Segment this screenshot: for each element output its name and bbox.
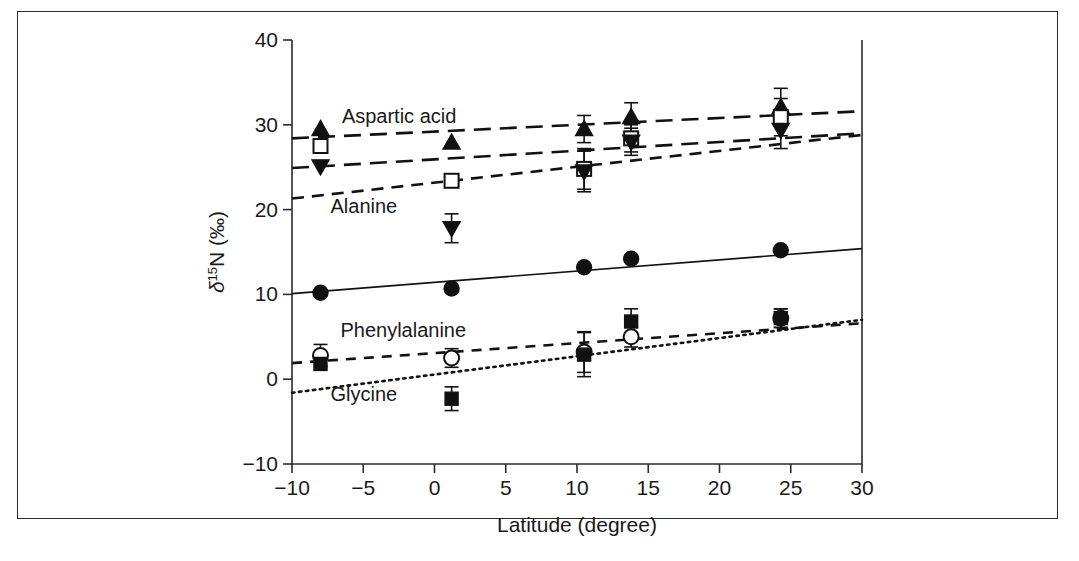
data-point-circle-filled	[577, 260, 592, 275]
data-point-square-open	[314, 139, 328, 153]
data-point-circle-open	[444, 351, 459, 366]
x-tick-label: 30	[850, 476, 873, 499]
data-point-circle-filled	[624, 251, 639, 266]
x-axis-title: Latitude (degree)	[497, 513, 657, 536]
data-point-triangle-up-filled	[312, 121, 329, 136]
y-tick-label: 40	[255, 28, 278, 51]
series-annotation: Aspartic acid	[342, 105, 457, 127]
data-point-triangle-up-filled	[443, 134, 460, 149]
data-point-triangle-down-filled	[312, 160, 329, 175]
x-tick-label: 25	[779, 476, 802, 499]
data-point-circle-filled	[444, 281, 459, 296]
data-point-square-filled	[774, 312, 787, 325]
error-bars	[314, 88, 788, 410]
y-tick-label: 0	[266, 367, 278, 390]
series-annotation: Glycine	[330, 383, 397, 405]
data-point-square-filled	[314, 357, 327, 370]
y-tick-label: −10	[242, 452, 278, 475]
data-point-triangle-up-filled	[576, 121, 593, 136]
y-tick-label: 10	[255, 282, 278, 305]
y-tick-label: 30	[255, 113, 278, 136]
data-point-circle-open	[624, 329, 639, 344]
series-annotation: Phenylalanine	[340, 319, 466, 341]
data-point-square-filled	[625, 315, 638, 328]
data-point-square-open	[445, 174, 459, 188]
x-tick-label: 5	[500, 476, 512, 499]
data-point-circle-filled	[313, 285, 328, 300]
scatter-plot: −10010203040−10−5051015202530 Aspartic a…	[0, 0, 1079, 561]
x-tick-label: 10	[565, 476, 588, 499]
x-tick-label: 20	[708, 476, 731, 499]
x-tick-label: −10	[274, 476, 310, 499]
y-axis-title: δ15N (‰)	[205, 211, 229, 293]
svg-text:δ15N (‰): δ15N (‰)	[205, 211, 229, 293]
data-point-circle-filled	[773, 243, 788, 258]
data-point-triangle-down-filled	[443, 222, 460, 237]
x-tick-label: 15	[637, 476, 660, 499]
x-tick-label: −5	[351, 476, 375, 499]
x-tick-label: 0	[429, 476, 441, 499]
data-point-square-filled	[445, 392, 458, 405]
data-point-square-filled	[578, 348, 591, 361]
data-point-square-open	[774, 110, 788, 124]
y-tick-label: 20	[255, 198, 278, 221]
data-point-triangle-up-filled	[623, 109, 640, 124]
series-annotation: Alanine	[330, 195, 397, 217]
